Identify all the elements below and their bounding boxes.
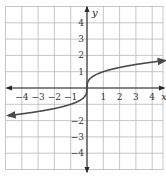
x-axis-label: x — [161, 91, 166, 102]
x-tick-label: −3 — [31, 92, 45, 102]
y-tick-label: −2 — [71, 116, 84, 126]
graph: −4−3−2−112344321−2−3−4xy — [0, 0, 166, 177]
y-tick-label: 3 — [78, 34, 84, 44]
x-tick-label: −1 — [64, 92, 77, 102]
y-axis-label: y — [91, 7, 98, 18]
y-tick-label: 4 — [78, 18, 84, 28]
x-tick-label: 4 — [149, 92, 155, 102]
x-tick-label: 2 — [117, 92, 123, 102]
x-tick-label: −2 — [48, 92, 61, 102]
y-tick-label: −3 — [71, 132, 85, 142]
x-tick-label: 1 — [100, 92, 106, 102]
y-tick-label: −4 — [71, 148, 85, 158]
y-tick-label: 2 — [78, 50, 84, 60]
x-tick-label: 3 — [133, 92, 139, 102]
x-tick-label: −4 — [15, 92, 29, 102]
y-tick-label: 1 — [78, 67, 84, 77]
